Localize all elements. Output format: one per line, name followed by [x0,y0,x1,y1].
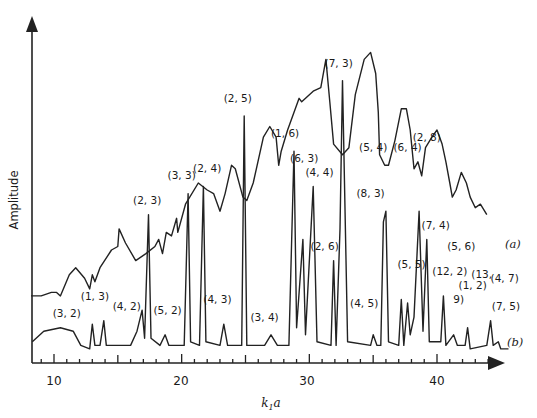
resonance-spectrum-chart: 10 20 30 40 Amplitude k1a (a) (b) (3, 2)… [0,0,537,418]
peak-label: (4, 7) [491,272,519,284]
peak-label: (3, 2) [53,307,81,319]
peak-label: (7, 5) [492,300,520,312]
peak-label: (2, 5) [224,92,252,104]
peak-annotations: (3, 2)(1, 3)(4, 2)(5, 2)(2, 3)(3, 3)(2, … [53,57,520,323]
peak-label: (6, 3) [290,152,318,164]
y-axis-arrow-icon [26,16,38,32]
peak-label: (7, 4) [422,219,450,231]
peak-label: (12, 2) [432,265,467,277]
peak-label: (3, 3) [168,169,196,181]
peak-label: (1, 6) [271,127,299,139]
x-tick-label-20: 20 [173,374,188,388]
curve-b [32,81,508,349]
peak-label: 9) [453,293,464,305]
peak-label: (2, 3) [133,194,161,206]
peak-label: (2, 8) [413,131,441,143]
peak-label: (4, 2) [113,300,141,312]
peak-label: (3, 4) [250,311,278,323]
peak-label: (2, 4) [193,162,221,174]
peak-label: (7, 3) [325,57,353,69]
peak-label: (6, 4) [393,141,421,153]
x-tick-label-10: 10 [46,374,61,388]
peak-label: (4, 3) [203,293,231,305]
peak-label: (13, [471,268,492,280]
peak-label: (5, 6) [447,240,475,252]
peak-label: (8, 3) [356,187,384,199]
peak-label: (5, 5) [397,258,425,270]
x-axis-arrow-icon [488,356,505,370]
peak-label: (2, 6) [311,240,339,252]
peak-label: (1, 3) [81,290,109,302]
peak-label: (1, 2) [459,279,487,291]
peak-label: (5, 4) [359,141,387,153]
x-tick-label-30: 30 [299,374,314,388]
peak-label: (5, 2) [153,304,181,316]
series-label-a: (a) [505,237,521,251]
peak-label: (4, 4) [305,166,333,178]
x-axis-ticks [41,354,488,363]
x-axis-label: k1a [261,396,281,412]
series-label-b: (b) [507,335,523,349]
x-tick-label-40: 40 [429,374,444,388]
y-axis-label: Amplitude [7,171,21,230]
peak-label: (4, 5) [350,297,378,309]
